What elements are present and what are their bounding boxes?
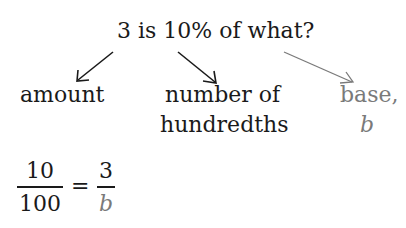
fraction-bar (97, 186, 115, 188)
right-fraction: 3 b (97, 160, 115, 215)
equals-sign: = (71, 175, 89, 197)
right-denominator: b (97, 193, 115, 215)
hundredths-label-line1: number of (165, 84, 280, 106)
base-label-variable: b (360, 114, 374, 136)
arrow-to-base-icon (284, 52, 353, 83)
arrow-to-hundredths-icon (178, 52, 216, 83)
left-fraction: 10 100 (17, 160, 63, 215)
arrow-to-amount-icon (77, 52, 113, 81)
right-numerator: 3 (97, 160, 115, 182)
fraction-bar (17, 186, 63, 188)
left-numerator: 10 (24, 160, 56, 182)
amount-label: amount (20, 84, 104, 106)
base-label-line1: base, (340, 84, 399, 106)
left-denominator: 100 (17, 193, 63, 215)
hundredths-label-line2: hundredths (160, 114, 289, 136)
